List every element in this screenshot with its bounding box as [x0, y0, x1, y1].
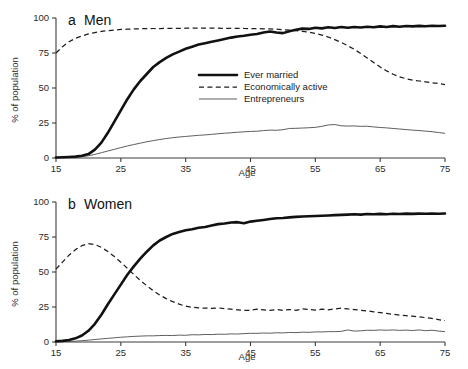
figure-root: 0255075100 15253545556575 Age % of popul…: [0, 0, 468, 369]
legend-label-economically-active: Economically active: [244, 81, 327, 92]
x-tick-label: 25: [116, 163, 127, 174]
x-tick-label: 75: [440, 163, 451, 174]
y-axis-title-women: % of population: [9, 241, 20, 307]
panel-letter-a: a: [68, 12, 76, 28]
y-tick-label: 75: [38, 231, 49, 242]
legend-label-entrepreneurs: Entrepreneurs: [244, 93, 304, 104]
x-tick-label: 75: [440, 347, 451, 358]
y-tick-label: 25: [38, 301, 49, 312]
panel-letter-b: b: [68, 196, 76, 212]
series-group-women: [56, 213, 445, 341]
x-tick-label: 15: [51, 163, 62, 174]
chart-svg-women: 0255075100 15253545556575 Age % of popul…: [0, 184, 468, 369]
x-tick-label: 25: [116, 347, 127, 358]
x-tick-label: 55: [310, 347, 321, 358]
x-tick-label: 65: [375, 347, 386, 358]
series-line-ever-married-women: [56, 213, 445, 341]
y-tick-label: 0: [44, 336, 49, 347]
x-axis-title-men: Age: [239, 167, 256, 178]
y-tick-label: 100: [33, 196, 49, 207]
x-ticks-men: [56, 158, 445, 162]
series-line-entrepreneurs-men: [56, 125, 445, 158]
chart-svg-men: 0255075100 15253545556575 Age % of popul…: [0, 0, 468, 185]
x-tick-label: 35: [180, 347, 191, 358]
legend-label-ever-married: Ever married: [244, 69, 298, 80]
y-tick-label: 75: [38, 47, 49, 58]
chart-panel-women: 0255075100 15253545556575 Age % of popul…: [0, 184, 468, 369]
x-ticks-women: [56, 342, 445, 346]
panel-title-women: Women: [84, 196, 132, 212]
x-tick-label: 55: [310, 163, 321, 174]
y-tick-labels-women: 0255075100: [33, 196, 49, 347]
y-tick-labels-men: 0255075100: [33, 12, 49, 163]
y-tick-label: 25: [38, 117, 49, 128]
y-ticks-men: [52, 18, 56, 158]
y-tick-label: 0: [44, 152, 49, 163]
x-tick-label: 15: [51, 347, 62, 358]
legend-men: Ever married Economically active Entrepr…: [199, 69, 327, 104]
x-tick-label: 65: [375, 163, 386, 174]
x-axis-title-women: Age: [239, 351, 256, 362]
y-tick-label: 50: [38, 82, 49, 93]
y-tick-label: 100: [33, 12, 49, 23]
series-line-economically-active-women: [56, 244, 445, 321]
y-axis-title-men: % of population: [9, 57, 20, 123]
series-line-entrepreneurs-women: [56, 330, 445, 342]
chart-panel-men: 0255075100 15253545556575 Age % of popul…: [0, 0, 468, 185]
x-tick-label: 35: [180, 163, 191, 174]
panel-title-men: Men: [84, 12, 111, 28]
y-tick-label: 50: [38, 266, 49, 277]
y-ticks-women: [52, 202, 56, 342]
